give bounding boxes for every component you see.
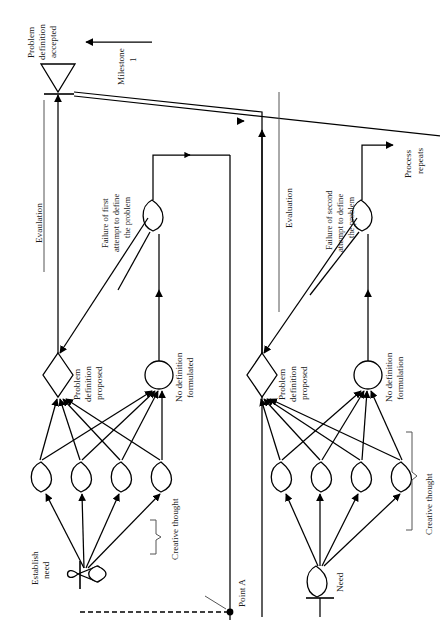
edges-ideas-to-outcomes-right bbox=[261, 391, 402, 460]
node-idea-right-2 bbox=[311, 462, 331, 492]
node-no-definition-formulated bbox=[145, 361, 173, 389]
label-pdp-right-line2: definition bbox=[288, 366, 298, 402]
node-idea-right-1 bbox=[271, 462, 291, 492]
label-pda-line3: accepted bbox=[48, 25, 58, 58]
node-problem-definition-proposed-left bbox=[43, 353, 73, 397]
node-need bbox=[306, 566, 334, 617]
node-problem-definition-accepted bbox=[41, 64, 75, 94]
point-a-leader bbox=[205, 596, 226, 609]
edges-start-to-ideas-right bbox=[286, 494, 400, 566]
label-pda-line2: definition bbox=[37, 24, 47, 60]
label-evaluation-left: Evaulation bbox=[34, 203, 44, 243]
label-pdp-left-line3: proposed bbox=[94, 366, 104, 400]
label-pdp-right-line3: proposed bbox=[299, 366, 309, 400]
node-idea-left-1 bbox=[31, 462, 51, 492]
label-ndf-right-line1: No definition bbox=[384, 352, 394, 402]
label-ndf-left-line1: No definition bbox=[174, 352, 184, 402]
label-establish-need-line1: Establish bbox=[30, 551, 40, 585]
label-process-repeats-line2: repeats bbox=[415, 148, 425, 174]
node-idea-left-3 bbox=[111, 462, 131, 492]
axis-evaluation-left bbox=[44, 95, 58, 353]
label-milestone: Milestone bbox=[116, 48, 126, 85]
label-evaluation-right: Evaluation bbox=[284, 188, 294, 228]
node-idea-left-4 bbox=[151, 462, 171, 492]
label-failure-first-line1: Failure of first bbox=[100, 198, 110, 248]
label-pda-line1: Problem bbox=[26, 27, 36, 58]
label-pdp-left-line1: Problem bbox=[72, 369, 82, 400]
bracket-creative-thought-left bbox=[150, 520, 161, 554]
label-creative-thought-left: Creative thought bbox=[170, 498, 180, 560]
label-pdp-left-line2: definition bbox=[83, 366, 93, 402]
label-creative-thought-right: Creative thought bbox=[424, 473, 434, 535]
label-ndf-right-line2: formulation bbox=[395, 356, 405, 400]
label-point-a: Point A bbox=[237, 579, 247, 607]
label-milestone-number: 1 bbox=[128, 57, 138, 62]
label-failure-second-line1: Failure of second bbox=[324, 190, 334, 250]
flowchart-canvas: Establish need Problem definition propos… bbox=[0, 0, 440, 633]
rail-accepted-to-bottom bbox=[74, 92, 262, 617]
label-establish-need-line2: need bbox=[41, 561, 51, 579]
node-no-definition-formulation bbox=[354, 361, 382, 389]
label-failure-second-line2: attempt to define bbox=[335, 194, 345, 252]
node-idea-right-4 bbox=[391, 462, 411, 492]
label-failure-second-line3: the problem bbox=[346, 196, 356, 238]
label-pdp-right-line1: Problem bbox=[277, 369, 287, 400]
node-idea-left-2 bbox=[71, 462, 91, 492]
node-problem-definition-proposed-right bbox=[247, 353, 277, 397]
edges-start-to-ideas-left bbox=[46, 494, 160, 568]
arrow-process-repeats bbox=[362, 145, 393, 200]
label-failure-first-line3: the problem bbox=[122, 196, 132, 238]
node-idea-right-3 bbox=[351, 462, 371, 492]
label-need: Need bbox=[335, 572, 345, 592]
edge-right-cluster-to-accepted bbox=[74, 96, 440, 136]
label-ndf-left-line2: formulated bbox=[185, 357, 195, 398]
label-process-repeats-line1: Process bbox=[403, 150, 413, 178]
axis-evaluation-right bbox=[262, 92, 279, 353]
edges-ideas-to-outcomes-left bbox=[40, 391, 162, 460]
label-failure-first-line2: attempt to define bbox=[111, 194, 121, 252]
point-a-marker bbox=[227, 609, 234, 616]
